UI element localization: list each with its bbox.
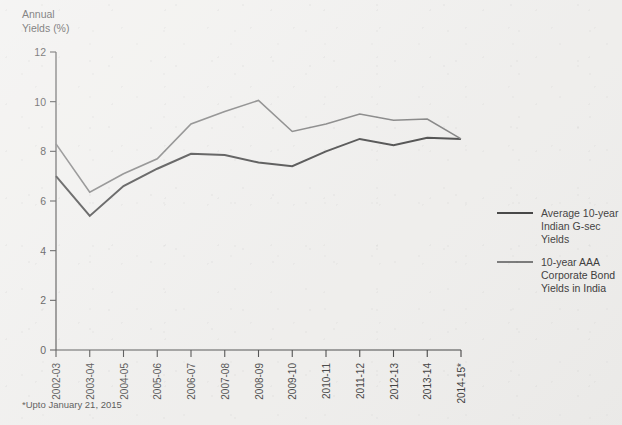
x-tick-label: 2009-10 (287, 363, 298, 400)
legend-label-1: Corporate Bond (541, 269, 615, 281)
y-tick-label: 8 (40, 145, 46, 157)
x-tick-label: 2012-13 (389, 363, 400, 400)
y-tick-label: 2 (40, 294, 46, 306)
y-tick-label: 12 (34, 46, 46, 58)
x-tick-label: 2008-09 (254, 363, 265, 400)
y-tick-label: 0 (40, 344, 46, 356)
chart-svg: 024681012 2002-032003-042004-052005-0620… (0, 0, 622, 425)
x-tick-label: 2002-03 (51, 363, 62, 400)
y-tick-label: 6 (40, 195, 46, 207)
y-tick-label: 10 (34, 96, 46, 108)
x-tick-label: 2003-04 (85, 363, 96, 400)
x-axis: 2002-032003-042004-052005-062006-072007-… (51, 350, 467, 404)
legend-label-0: Yields (541, 233, 569, 245)
series-line-corporate (56, 100, 461, 192)
x-tick-label: 2010-11 (321, 363, 332, 399)
x-tick-label: 2014-15* (456, 363, 467, 404)
legend-label-1: 10-year AAA (541, 256, 600, 268)
chart-legend: Average 10-yearIndian G-secYields10-year… (497, 207, 619, 294)
legend-label-1: Yields in India (541, 282, 606, 294)
y-axis: 024681012 (34, 46, 56, 356)
legend-label-0: Indian G-sec (541, 220, 601, 232)
x-tick-label: 2013-14 (422, 363, 433, 400)
line-chart: 024681012 2002-032003-042004-052005-0620… (0, 0, 622, 425)
x-tick-label: 2005-06 (152, 363, 163, 400)
x-tick-label: 2011-12 (355, 363, 366, 399)
x-tick-label: 2004-05 (119, 363, 130, 400)
legend-label-0: Average 10-year (541, 207, 619, 219)
x-tick-label: 2007-08 (220, 363, 231, 400)
x-tick-label: 2006-07 (186, 363, 197, 400)
y-tick-label: 4 (40, 245, 46, 257)
data-series-group (56, 100, 461, 215)
